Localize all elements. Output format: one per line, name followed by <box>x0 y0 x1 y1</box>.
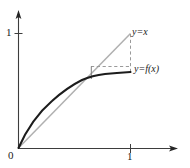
axes-group <box>16 10 178 151</box>
origin-label: 0 <box>8 150 14 161</box>
function-plot-svg <box>0 0 190 168</box>
x-axis-tick-label-1: 1 <box>127 151 133 162</box>
figure-container: y=x y=f(x) 1 1 0 <box>0 0 190 168</box>
identity-line-y-equals-x <box>19 34 131 149</box>
y-axis-tick-label-1: 1 <box>6 27 12 38</box>
function-curve-y-equals-fx <box>19 72 131 148</box>
identity-line-label: y=x <box>132 27 148 37</box>
function-curve-label: y=f(x) <box>134 64 159 74</box>
